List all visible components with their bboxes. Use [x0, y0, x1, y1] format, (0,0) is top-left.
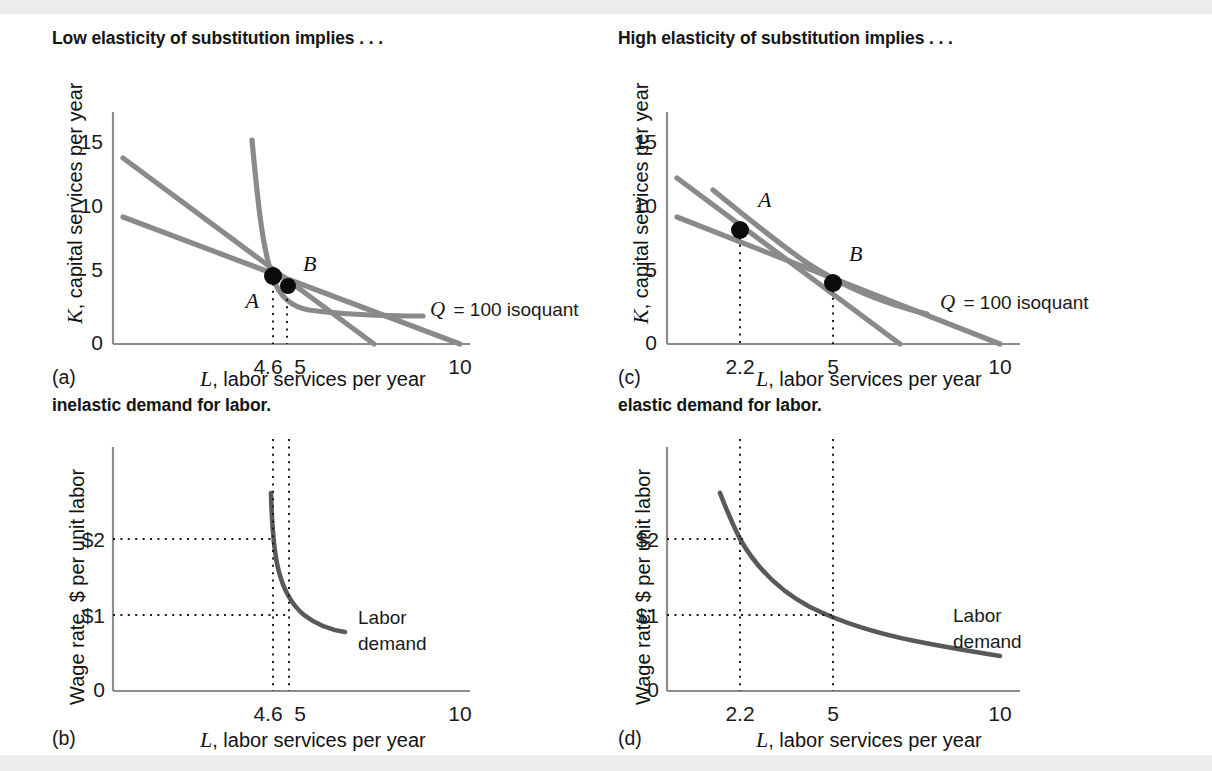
panel-b-plot: Labor demand $2 $1 0 4.6 5 10 [0, 419, 606, 719]
panel-c-point-a-label: A [756, 187, 772, 212]
panel-b-ytick-0: 0 [93, 678, 105, 701]
figure-canvas: Low elasticity of substitution implies .… [0, 14, 1212, 755]
panel-b-xtick-5: 5 [294, 702, 306, 725]
panel-a-point-a-dot [264, 267, 282, 285]
panel-c-point-b-dot [824, 274, 842, 292]
panel-a-heading: Low elasticity of substitution implies .… [52, 28, 383, 49]
panel-a-point-b-label: B [303, 251, 316, 276]
panel-b-demand-label-line2: demand [358, 633, 427, 654]
panel-c-key: (c) [618, 366, 641, 389]
panel-c-xtick-10: 10 [988, 355, 1011, 378]
panel-c-ytick-10: 10 [634, 194, 657, 217]
panel-b-xtick-46: 4.6 [253, 702, 282, 725]
panel-c-ytick-15: 15 [634, 130, 657, 153]
panel-a-plot: A B Q = 100 isoquant 15 10 5 0 4.6 5 10 [0, 54, 606, 354]
panel-d-xtick-10: 10 [988, 702, 1011, 725]
panel-a-ytick-10: 10 [80, 194, 103, 217]
panel-a-isoquant-label: Q = 100 isoquant [430, 297, 579, 321]
panel-a: Low elasticity of substitution implies .… [0, 14, 606, 389]
panel-c-ytick-0: 0 [645, 331, 657, 354]
panel-d-demand-label-line1: Labor [953, 605, 1002, 626]
bottom-band [0, 755, 1212, 771]
panel-c: High elasticity of substitution implies … [560, 14, 1212, 389]
panel-d-plot: Labor demand $2 $1 0 2.2 5 10 [560, 419, 1212, 719]
panel-d-xtick-22: 2.2 [725, 702, 754, 725]
panel-d-ytick-0: 0 [647, 678, 659, 701]
panel-a-key: (a) [52, 366, 76, 389]
panel-a-isoquant [252, 140, 423, 316]
panel-d-demand-label-line2: demand [953, 631, 1022, 652]
panel-b-key: (b) [52, 727, 76, 750]
panel-d-ytick-1: $1 [636, 604, 659, 627]
panel-a-ytick-15: 15 [80, 130, 103, 153]
panel-c-xtick-22: 2.2 [725, 355, 754, 378]
panel-a-xtick-10: 10 [448, 355, 471, 378]
panel-d-heading: elastic demand for labor. [618, 395, 822, 416]
panel-b-ytick-2: $2 [82, 528, 105, 551]
panel-b: inelastic demand for labor. Wage rate, $… [0, 389, 606, 755]
panel-a-point-b-dot [280, 278, 296, 294]
panel-b-demand-curve [271, 493, 345, 632]
panel-c-point-a-dot [731, 221, 749, 239]
panel-b-ytick-1: $1 [82, 604, 105, 627]
panel-a-point-a-label: A [244, 288, 260, 313]
panel-d-ytick-2: $2 [636, 528, 659, 551]
panel-c-plot: A B Q = 100 isoquant 15 10 5 0 2.2 5 10 [560, 54, 1212, 354]
panel-b-xtick-10: 10 [448, 702, 471, 725]
panel-b-heading: inelastic demand for labor. [52, 395, 271, 416]
panel-d-xlabel: L, labor services per year [756, 727, 982, 753]
panel-c-point-b-label: B [849, 241, 862, 266]
panel-a-ytick-0: 0 [91, 331, 103, 354]
panel-c-isoquant [713, 190, 927, 314]
panel-b-xlabel: L, labor services per year [200, 727, 426, 753]
panel-c-isoquant-label: Q = 100 isoquant [940, 290, 1089, 314]
panel-a-ytick-5: 5 [91, 258, 103, 281]
panel-d-xtick-5: 5 [827, 702, 839, 725]
top-band [0, 0, 1212, 14]
panel-b-demand-label-line1: Labor [358, 607, 407, 628]
panel-c-ytick-5: 5 [645, 258, 657, 281]
panel-c-heading: High elasticity of substitution implies … [618, 28, 953, 49]
panel-d: elastic demand for labor. Wage rate, $ p… [560, 389, 1212, 755]
panel-d-key: (d) [618, 727, 642, 750]
panel-a-isocost-original [123, 158, 374, 344]
